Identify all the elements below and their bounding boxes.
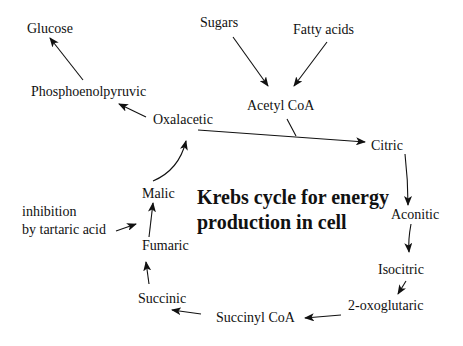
diagram-title-line1: Krebs cycle for energy xyxy=(197,185,389,210)
arrow-inhibition xyxy=(116,224,136,231)
arrows-layer xyxy=(0,0,463,346)
diagram-title-line2: production in cell xyxy=(197,210,347,235)
node-malic: Malic xyxy=(142,186,175,202)
node-sugars: Sugars xyxy=(200,15,238,31)
node-aconitic: Aconitic xyxy=(391,207,439,223)
arrow-malic-to-oxalacetic xyxy=(153,141,186,181)
node-isocitric: Isocitric xyxy=(378,262,424,278)
arrow-oxalacetic-to-pep xyxy=(119,104,146,117)
node-glucose: Glucose xyxy=(27,21,73,37)
arrow-sugars-to-acetyl-coa xyxy=(233,37,268,86)
node-inhibition-line2: by tartaric acid xyxy=(22,222,106,238)
node-succinic: Succinic xyxy=(138,291,186,307)
line-acetyl-coa-join xyxy=(287,119,296,136)
node-2-oxoglutaric: 2-oxoglutaric xyxy=(348,298,423,314)
arrow-succinyl-coa-to-succinic xyxy=(172,310,201,314)
arrow-oxoglutaric-to-succinyl-coa xyxy=(305,315,341,318)
arrow-aconitic-to-isocitric xyxy=(409,224,411,252)
node-oxalacetic: Oxalacetic xyxy=(153,112,213,128)
arrow-succinic-to-fumaric xyxy=(146,262,149,284)
node-fumaric: Fumaric xyxy=(142,238,189,254)
node-citric: Citric xyxy=(371,138,403,154)
arrow-isocitric-to-oxoglutaric xyxy=(398,281,406,294)
arrow-fumaric-to-malic xyxy=(149,203,153,237)
arrow-citric-to-aconitic xyxy=(405,154,408,205)
node-fatty-acids: Fatty acids xyxy=(293,22,354,38)
node-phosphoenolpyruvic: Phosphoenolpyruvic xyxy=(31,84,146,100)
arrow-pep-to-glucose xyxy=(50,38,83,80)
node-succinyl-coa: Succinyl CoA xyxy=(216,310,295,326)
arrow-fatty-acids-to-acetyl-coa xyxy=(294,42,327,86)
krebs-cycle-diagram: Glucose Sugars Fatty acids Phosphoenolpy… xyxy=(0,0,463,346)
arrow-oxalacetic-to-citric xyxy=(198,130,365,142)
node-inhibition-line1: inhibition xyxy=(22,204,76,220)
node-acetyl-coa: Acetyl CoA xyxy=(247,98,314,114)
